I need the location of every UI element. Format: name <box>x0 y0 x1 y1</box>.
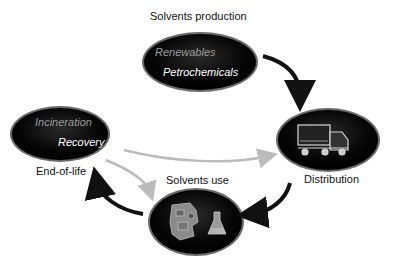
end-of-life-ellipse <box>10 106 110 162</box>
arrow-distribution-to-use <box>252 183 290 214</box>
distribution-label: Distribution <box>304 173 359 185</box>
end-of-life-label: End-of-life <box>36 165 86 177</box>
arrow-end-of-life-to-use <box>106 160 150 192</box>
recovery-text: Recovery <box>58 136 104 148</box>
arrow-use-to-end-of-life <box>97 182 143 214</box>
production-ellipse <box>142 32 258 92</box>
incineration-text: Incineration <box>35 116 92 128</box>
arrow-production-to-distribution <box>263 56 300 96</box>
production-label: Solvents production <box>150 10 247 22</box>
arrow-end-of-life-to-distribution <box>124 150 268 161</box>
renewables-text: Renewables <box>155 46 216 58</box>
petrochemicals-text: Petrochemicals <box>163 66 238 78</box>
engine-icon <box>170 203 198 240</box>
solvents-use-label: Solvents use <box>166 174 229 186</box>
lifecycle-diagram <box>0 0 395 267</box>
